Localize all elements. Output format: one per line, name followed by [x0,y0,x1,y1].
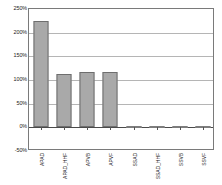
x-axis-tick-mark [110,127,111,130]
bar-slot [145,9,168,149]
x-label-slot: SSVB [168,151,191,185]
y-axis-tick-label: 200% [1,29,27,35]
x-axis-tick-mark [180,127,181,130]
bar[interactable] [33,21,48,128]
bar-slot [52,9,75,149]
x-axis-category-label: APVB [86,153,92,166]
bar[interactable] [103,72,118,127]
x-axis-tick-mark [157,127,158,130]
y-axis-tick-label: 150% [1,52,27,58]
bar[interactable] [80,72,95,127]
x-axis-tick-mark [41,127,42,130]
x-axis-tick-mark [203,127,204,130]
x-label-slot: SSAD_HHF [144,151,167,185]
x-axis-category-label: SSAD [133,153,139,166]
bar-slot [169,9,192,149]
x-axis-category-label: APAD_HHF [63,153,69,179]
x-label-slot: APVB [75,151,98,185]
x-axis-category-label: SSVB [179,153,185,166]
bar-chart: 250%200%150%100%50%0%-50% APADAPAD_HHFAP… [0,0,222,185]
plot-area [28,8,214,150]
x-label-slot: APAD_HHF [51,151,74,185]
x-axis-tick-mark [64,127,65,130]
x-label-slot: SSVF [191,151,214,185]
x-axis-category-labels: APADAPAD_HHFAPVBAPVFSSADSSAD_HHFSSVBSSVF [28,151,214,185]
x-label-slot: SSAD [121,151,144,185]
y-axis: 250%200%150%100%50%0%-50% [0,0,27,155]
bar-slot [122,9,145,149]
x-axis-category-label: SSVF [202,153,208,166]
x-axis-category-label: SSAD_HHF [156,153,162,179]
bar-slot [76,9,99,149]
bar-slot [29,9,52,149]
y-axis-tick-label: 100% [1,76,27,82]
bar[interactable] [56,74,71,127]
y-axis-tick-label: 250% [1,5,27,11]
bar-slot [192,9,215,149]
y-axis-tick-label: 50% [1,100,27,106]
y-axis-tick-label: -50% [1,147,27,153]
x-label-slot: APVF [98,151,121,185]
x-label-slot: APAD [28,151,51,185]
x-axis-category-label: APAD [40,153,46,166]
x-axis-category-label: APVF [109,153,115,166]
x-axis-tick-mark [87,127,88,130]
bar-series [29,9,213,149]
x-axis-tick-mark [134,127,135,130]
bar-slot [99,9,122,149]
y-axis-tick-label: 0% [1,123,27,129]
